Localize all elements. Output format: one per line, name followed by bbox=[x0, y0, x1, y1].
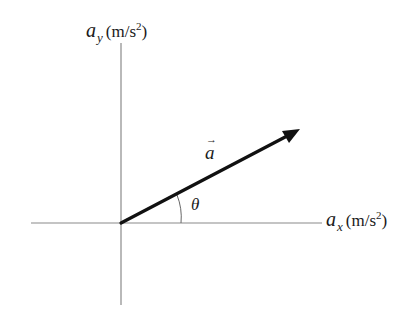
vector-symbol: a bbox=[205, 142, 215, 163]
x-axis-unit: (m/s2) bbox=[346, 211, 387, 230]
x-axis-label: ax(m/s2) bbox=[326, 209, 387, 229]
y-axis-unit-exponent: 2 bbox=[136, 20, 142, 32]
x-axis-subscript: x bbox=[337, 219, 343, 234]
vector-label: →a bbox=[205, 143, 215, 162]
y-axis-variable: a bbox=[86, 19, 96, 41]
x-axis-variable: a bbox=[326, 208, 336, 230]
y-axis-unit: (m/s2) bbox=[106, 22, 147, 41]
angle-label: θ bbox=[191, 196, 199, 213]
y-axis-subscript: y bbox=[97, 30, 103, 45]
x-axis-unit-exponent: 2 bbox=[376, 209, 382, 221]
angle-arc bbox=[177, 195, 181, 223]
y-axis-label: ay(m/s2) bbox=[86, 20, 147, 40]
vector-arrow-icon: → bbox=[206, 134, 217, 145]
